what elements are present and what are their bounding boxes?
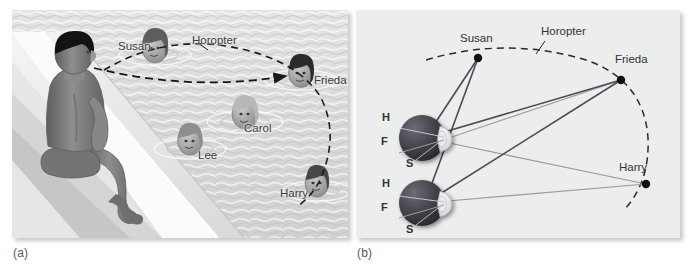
label-lower-eye-s: S: [406, 223, 413, 235]
panel-a-artwork: [12, 10, 348, 238]
swimmer-head-harry: [305, 165, 329, 197]
figure-root: Susan Horopter Frieda Carol Lee Harry: [0, 0, 698, 272]
label-upper-eye-f: F: [381, 135, 388, 147]
swimmer-head-frieda: [289, 54, 315, 88]
label-harry-b: Harry: [619, 161, 647, 173]
label-frieda-b: Frieda: [615, 53, 648, 65]
caption-panel-b: (b): [357, 246, 372, 260]
label-horopter-b: Horopter: [541, 25, 586, 37]
panel-b-horopter-diagram: Susan Frieda Harry Horopter H F S H F S: [356, 10, 680, 238]
panel-a-pool-scene: Susan Horopter Frieda Carol Lee Harry: [12, 10, 348, 238]
point-susan: [474, 54, 482, 62]
label-frieda-a: Frieda: [314, 74, 347, 86]
point-harry: [642, 180, 650, 188]
caption-panel-a: (a): [13, 246, 28, 260]
observer-eye: [87, 51, 90, 54]
label-carol-a: Carol: [244, 122, 271, 134]
label-lee-a: Lee: [198, 149, 217, 161]
label-lower-eye-h: H: [382, 177, 390, 189]
label-upper-eye-h: H: [382, 111, 390, 123]
point-frieda: [617, 76, 625, 84]
label-lower-eye-f: F: [381, 201, 388, 213]
label-susan-b: Susan: [460, 32, 493, 44]
label-susan-a: Susan: [118, 40, 151, 52]
panel-b-artwork: [356, 10, 680, 238]
label-upper-eye-s: S: [406, 157, 413, 169]
label-horopter-a: Horopter: [192, 34, 237, 46]
label-harry-a: Harry: [280, 187, 308, 199]
